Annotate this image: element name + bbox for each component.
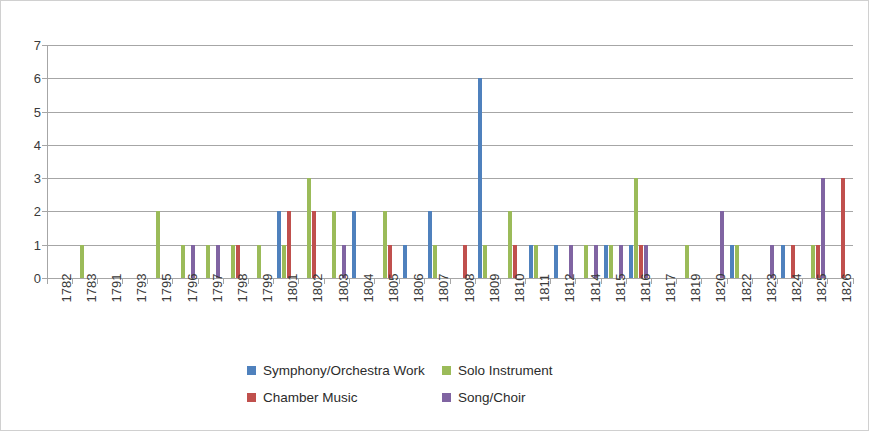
bar-1[interactable]	[534, 245, 538, 278]
x-axis-label-cell: 1820	[702, 286, 727, 346]
x-axis-tick-label: 1812	[563, 274, 576, 303]
y-axis-tick-label: 7	[34, 39, 41, 52]
bar-group	[425, 45, 450, 278]
bar-0[interactable]	[428, 211, 432, 278]
bar-0[interactable]	[403, 245, 407, 278]
bar-group	[601, 45, 626, 278]
bar-group	[400, 45, 425, 278]
legend-label: Solo Instrument	[458, 363, 553, 378]
bar-group	[223, 45, 248, 278]
bar-1[interactable]	[383, 211, 387, 278]
bar-0[interactable]	[604, 245, 608, 278]
bar-group	[274, 45, 299, 278]
x-axis-tick-label: 1819	[689, 274, 702, 303]
x-axis-tick-label: 1809	[488, 274, 501, 303]
x-axis-tick-label: 1808	[463, 274, 476, 303]
bar-group	[324, 45, 349, 278]
x-axis-tick-label: 1805	[387, 274, 400, 303]
bar-group	[828, 45, 853, 278]
legend-label: Song/Choir	[458, 390, 526, 405]
x-axis-tick-label: 1815	[614, 274, 627, 303]
bar-0[interactable]	[352, 211, 356, 278]
bar-0[interactable]	[554, 245, 558, 278]
bar-2[interactable]	[287, 211, 291, 278]
bar-group	[803, 45, 828, 278]
plot-area	[47, 45, 853, 278]
x-axis-label-cell: 1805	[374, 286, 399, 346]
x-axis-tick-label: 1826	[840, 274, 853, 303]
y-axis-tick-label: 5	[34, 105, 41, 118]
x-axis-tick-label: 1810	[513, 274, 526, 303]
bar-3[interactable]	[720, 211, 724, 278]
x-axis-label-cell: 1823	[752, 286, 777, 346]
x-axis-tick-label: 1796	[186, 274, 199, 303]
x-axis-tick-label: 1782	[60, 274, 73, 303]
chart-container: 01234567 1782178317911793179517961797179…	[0, 0, 869, 431]
bar-0[interactable]	[781, 245, 785, 278]
y-axis-tick-label: 3	[34, 172, 41, 185]
x-axis-label-cell: 1815	[601, 286, 626, 346]
bar-2[interactable]	[312, 211, 316, 278]
x-axis-label-cell: 1808	[450, 286, 475, 346]
bar-2[interactable]	[841, 178, 845, 278]
bar-0[interactable]	[529, 245, 533, 278]
legend-item-solo-instrument[interactable]: Solo Instrument	[442, 363, 637, 378]
bar-group	[173, 45, 198, 278]
x-axis-tick-label: 1807	[437, 274, 450, 303]
bar-group	[299, 45, 324, 278]
bar-1[interactable]	[508, 211, 512, 278]
x-axis-label-cell: 1814	[576, 286, 601, 346]
x-axis-tick-label: 1824	[790, 274, 803, 303]
bar-groups	[47, 45, 853, 278]
x-axis-label-cell: 1803	[324, 286, 349, 346]
x-axis-tick-label: 1795	[160, 274, 173, 303]
legend-label: Chamber Music	[263, 390, 358, 405]
bar-1[interactable]	[307, 178, 311, 278]
x-axis-label-cell: 1802	[299, 286, 324, 346]
bar-group	[752, 45, 777, 278]
bar-1[interactable]	[634, 178, 638, 278]
x-axis-label-cell: 1810	[500, 286, 525, 346]
x-axis-tick-label: 1783	[85, 274, 98, 303]
bar-group	[626, 45, 651, 278]
legend-label: Symphony/Orchestra Work	[263, 363, 425, 378]
bar-1[interactable]	[332, 211, 336, 278]
bar-group	[576, 45, 601, 278]
bar-3[interactable]	[821, 178, 825, 278]
bar-1[interactable]	[156, 211, 160, 278]
x-axis-label-cell: 1791	[97, 286, 122, 346]
x-axis-tick-label: 1797	[211, 274, 224, 303]
x-axis-label-cell: 1793	[123, 286, 148, 346]
x-axis-tick-label: 1802	[311, 274, 324, 303]
bar-0[interactable]	[730, 245, 734, 278]
bar-group	[526, 45, 551, 278]
bar-group	[198, 45, 223, 278]
y-axis-tick-label: 4	[34, 138, 41, 151]
x-axis-tick-label: 1791	[110, 274, 123, 303]
legend-row: Chamber Music Song/Choir	[247, 390, 637, 405]
legend-swatch-icon	[247, 393, 256, 402]
legend-item-chamber-music[interactable]: Chamber Music	[247, 390, 442, 405]
bar-group	[551, 45, 576, 278]
x-axis-label-cell: 1822	[727, 286, 752, 346]
bar-0[interactable]	[478, 78, 482, 278]
bar-group	[123, 45, 148, 278]
bar-group	[727, 45, 752, 278]
bar-group	[652, 45, 677, 278]
x-axis-label-cell: 1826	[828, 286, 853, 346]
bar-0[interactable]	[277, 211, 281, 278]
x-axis-label-cell: 1797	[198, 286, 223, 346]
x-axis-tick-label: 1817	[664, 274, 677, 303]
x-axis-tick-label: 1822	[740, 274, 753, 303]
chart-legend: Symphony/Orchestra Work Solo Instrument …	[247, 363, 637, 417]
x-axis-label-cell: 1816	[626, 286, 651, 346]
legend-row: Symphony/Orchestra Work Solo Instrument	[247, 363, 637, 378]
x-axis-label-cell: 1795	[148, 286, 173, 346]
bar-group	[349, 45, 374, 278]
bar-group	[47, 45, 72, 278]
legend-item-symphony-orchestra-work[interactable]: Symphony/Orchestra Work	[247, 363, 442, 378]
legend-item-song-choir[interactable]: Song/Choir	[442, 390, 637, 405]
x-axis-label-cell: 1819	[677, 286, 702, 346]
x-axis-label-cell: 1796	[173, 286, 198, 346]
bar-0[interactable]	[629, 245, 633, 278]
